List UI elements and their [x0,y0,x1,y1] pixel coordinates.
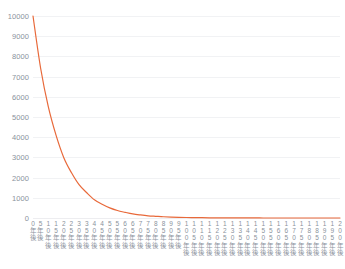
x-axis-tick-label: 95年後 [175,220,182,249]
x-axis-tick-label: 135年後 [237,220,244,256]
x-axis-tick-label: 10年後 [45,220,52,249]
x-axis-tick-label: 170年後 [290,220,297,256]
y-axis-tick-label: 0 [25,214,29,223]
x-axis-tick-label: 35年後 [83,220,90,249]
x-axis-tick-label: 30年後 [76,220,83,249]
x-axis-tick-label: 5年後 [37,220,44,242]
x-axis-tick-label: 100年後 [183,220,190,256]
chart-header [0,0,345,5]
series-curve [33,16,340,218]
x-axis-tick-label: 20年後 [60,220,67,249]
y-axis-tick-label: 6000 [12,92,29,101]
y-axis-tick-label: 4000 [12,133,29,142]
x-axis-tick-label: 80年後 [152,220,159,249]
x-axis-tick-label: 55年後 [114,220,121,249]
x-axis-tick-label: 70年後 [137,220,144,249]
x-axis-tick-label: 140年後 [244,220,251,256]
y-axis-tick-label: 5000 [12,113,29,122]
x-axis-tick-label: 200年後 [337,220,344,256]
x-axis-tick-label: 125年後 [221,220,228,256]
x-axis-tick-label: 175年後 [298,220,305,256]
y-axis-tick-label: 9000 [12,32,29,41]
x-axis-tick-label: 190年後 [321,220,328,256]
x-axis-tick-label: 185年後 [313,220,320,256]
x-axis-tick-label: 40年後 [91,220,98,249]
x-axis-tick-label: 105年後 [191,220,198,256]
x-axis-tick-label: 120年後 [214,220,221,256]
x-axis-tick-label: 150年後 [260,220,267,256]
y-axis-tick-label: 3000 [12,153,29,162]
y-axis-tick-label: 10000 [8,12,29,21]
x-axis-tick-label: 160年後 [275,220,282,256]
x-axis-tick-label: 75年後 [145,220,152,249]
x-axis-tick-label: 195年後 [329,220,336,256]
x-axis-tick-label: 90年後 [168,220,175,249]
x-axis-tick-label: 50年後 [106,220,113,249]
x-axis-tick-label: 85年後 [160,220,167,249]
x-axis-tick-label: 145年後 [252,220,259,256]
y-axis: 0100020003000400050006000700080009000100… [0,0,33,230]
x-axis-tick-label: 130年後 [229,220,236,256]
x-axis: 0年後5年後10年後15年後20年後25年後30年後35年後40年後45年後50… [33,220,340,269]
x-axis-tick-label: 165年後 [283,220,290,256]
x-axis-tick-label: 0年後 [30,220,37,242]
x-axis-tick-label: 65年後 [129,220,136,249]
x-axis-tick-label: 180年後 [306,220,313,256]
x-axis-tick-label: 45年後 [99,220,106,249]
y-axis-tick-label: 8000 [12,52,29,61]
exponential-decay-chart: 0100020003000400050006000700080009000100… [0,0,345,269]
x-axis-tick-label: 155年後 [267,220,274,256]
x-axis-tick-label: 110年後 [198,220,205,256]
plot-area [33,16,340,218]
y-axis-tick-label: 7000 [12,72,29,81]
y-axis-tick-label: 2000 [12,173,29,182]
x-axis-tick-label: 115年後 [206,220,213,256]
x-axis-tick-label: 60年後 [122,220,129,249]
x-axis-tick-label: 15年後 [53,220,60,249]
y-axis-tick-label: 1000 [12,193,29,202]
x-axis-tick-label: 25年後 [68,220,75,249]
